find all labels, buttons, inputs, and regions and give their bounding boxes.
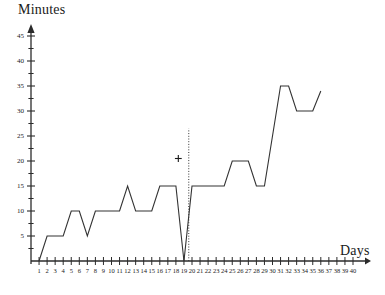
y-tick-label: 40	[8, 57, 24, 65]
x-tick-label: 40	[346, 267, 360, 274]
chart-container: Minutes Days 51015202530354045 123456789…	[0, 0, 385, 295]
x-axis	[31, 257, 371, 265]
y-tick-label: 20	[8, 157, 24, 165]
plot-area	[0, 0, 385, 295]
data-series	[39, 86, 321, 261]
y-tick-label: 30	[8, 107, 24, 115]
y-tick-label: 5	[8, 232, 24, 240]
y-tick-label: 25	[8, 132, 24, 140]
y-axis	[27, 24, 35, 264]
y-tick-label: 15	[8, 182, 24, 190]
y-tick-label: 35	[8, 82, 24, 90]
y-tick-label: 45	[8, 32, 24, 40]
y-tick-label: 10	[8, 207, 24, 215]
